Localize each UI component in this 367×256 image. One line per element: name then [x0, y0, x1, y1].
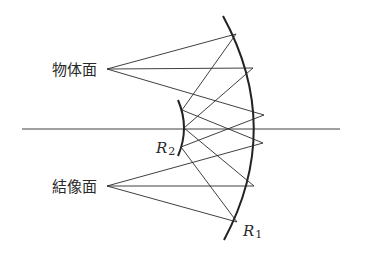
secondary-mirror-label: R2 — [155, 139, 175, 158]
object-plane-label: 物体面 — [52, 61, 97, 79]
ray-object-to-r1-top — [107, 34, 236, 69]
ray-r1-to-image-a — [107, 143, 263, 186]
ray-object-to-r1-low — [107, 69, 264, 115]
ray-r2-to-r1-a — [182, 110, 263, 143]
primary-mirror-R1 — [223, 16, 254, 240]
ray-r2-to-r1-b — [184, 128, 254, 186]
ray-r1-to-image-c — [107, 186, 237, 222]
image-plane-label: 結像面 — [52, 178, 97, 196]
ray-object-to-r1-mid — [107, 68, 253, 69]
primary-mirror-label: R1 — [242, 222, 262, 241]
offner-relay-diagram: 物体面 結像面 R2 R1 — [0, 0, 367, 256]
ray-r1-to-r2-b — [184, 68, 253, 128]
light-rays — [107, 34, 264, 222]
